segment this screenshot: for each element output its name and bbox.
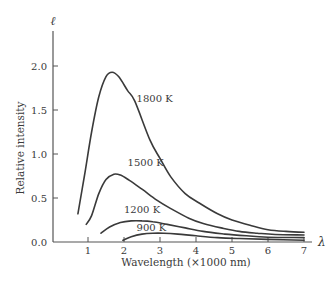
ticks: 12345670.00.51.01.52.0 [31, 61, 307, 257]
curve-1800k [78, 72, 304, 232]
y-axis-title: Relative intensity [14, 101, 26, 194]
x-tick-label: 4 [193, 245, 199, 256]
x-tick-label: 3 [157, 245, 163, 256]
x-tick-label: 6 [265, 245, 271, 256]
blackbody-chart: 12345670.00.51.01.52.0 1800 K1500 K1200 … [0, 0, 336, 284]
series-labels: 1800 K1500 K1200 K900 K [124, 93, 173, 233]
x-axis-title: Wavelength (×1000 nm) [121, 256, 250, 268]
x-tick-label: 5 [229, 245, 235, 256]
y-tick-label: 2.0 [31, 61, 47, 72]
label-1200k: 1200 K [124, 204, 161, 215]
y-axis-symbol: ℓ [51, 14, 56, 28]
label-1500k: 1500 K [128, 157, 165, 168]
y-tick-label: 1.0 [31, 149, 47, 160]
x-tick-label: 1 [85, 245, 91, 256]
y-tick-label: 0.0 [31, 237, 47, 248]
curve-1500k [86, 174, 304, 235]
label-900k: 900 K [137, 222, 167, 233]
series-lines [78, 72, 304, 240]
x-tick-label: 7 [301, 245, 307, 256]
y-tick-label: 1.5 [31, 105, 47, 116]
x-tick-label: 2 [121, 245, 127, 256]
x-axis-symbol: λ [317, 235, 326, 249]
axes [53, 31, 312, 242]
label-1800k: 1800 K [137, 93, 174, 104]
y-tick-label: 0.5 [31, 193, 47, 204]
